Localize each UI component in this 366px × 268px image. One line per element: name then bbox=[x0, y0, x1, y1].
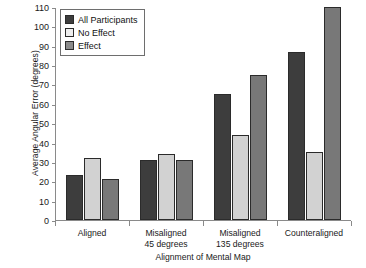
x-axis-category-labels: AlignedMisaligned45 degreesMisaligned135… bbox=[55, 228, 351, 249]
legend-swatch bbox=[65, 15, 74, 24]
x-category-label: Counteraligned bbox=[277, 228, 351, 249]
bar bbox=[250, 75, 267, 220]
x-tick-mark bbox=[129, 221, 130, 226]
legend-label: No Effect bbox=[78, 28, 115, 38]
bar bbox=[158, 154, 175, 220]
y-tick-label: 10 bbox=[39, 197, 49, 207]
y-tick-label: 70 bbox=[39, 80, 49, 90]
bar-chart: Average Angular Error (degrees) 01020304… bbox=[0, 0, 366, 268]
bar bbox=[232, 135, 249, 220]
legend-item: No Effect bbox=[65, 26, 138, 39]
x-axis-ticks bbox=[55, 221, 351, 226]
bar bbox=[324, 7, 341, 220]
legend-item: All Participants bbox=[65, 13, 138, 26]
y-tick-label: 50 bbox=[39, 119, 49, 129]
legend-label: Effect bbox=[78, 41, 101, 51]
bar bbox=[214, 94, 231, 220]
y-tick-label: 110 bbox=[35, 3, 49, 13]
y-tick-label: 40 bbox=[39, 139, 49, 149]
y-tick-label: 100 bbox=[34, 22, 49, 32]
legend-swatch bbox=[65, 28, 74, 37]
bar bbox=[306, 152, 323, 220]
y-tick-label: 60 bbox=[39, 100, 49, 110]
y-tick-label: 80 bbox=[39, 61, 49, 71]
x-category-label: Misaligned135 degrees bbox=[203, 228, 277, 249]
y-tick-label: 30 bbox=[39, 158, 49, 168]
x-tick-mark bbox=[203, 221, 204, 226]
bar bbox=[84, 158, 101, 220]
x-category-label: Aligned bbox=[55, 228, 129, 249]
bar bbox=[140, 160, 157, 220]
bar bbox=[176, 160, 193, 220]
bar-group bbox=[204, 8, 278, 220]
legend-label: All Participants bbox=[78, 15, 138, 25]
bar bbox=[66, 175, 83, 220]
legend-item: Effect bbox=[65, 39, 138, 52]
legend: All ParticipantsNo EffectEffect bbox=[60, 9, 145, 56]
y-tick-label: 20 bbox=[39, 177, 49, 187]
x-axis-title: Alignment of Mental Map bbox=[55, 252, 351, 262]
x-category-label: Misaligned45 degrees bbox=[129, 228, 203, 249]
bar bbox=[288, 52, 305, 220]
y-tick-label: 0 bbox=[44, 216, 49, 226]
bar-group bbox=[277, 8, 351, 220]
x-tick-mark bbox=[351, 221, 352, 226]
x-tick-mark bbox=[55, 221, 56, 226]
bar bbox=[102, 179, 119, 220]
legend-swatch bbox=[65, 41, 74, 50]
y-tick-label: 90 bbox=[39, 42, 49, 52]
x-tick-mark bbox=[277, 221, 278, 226]
